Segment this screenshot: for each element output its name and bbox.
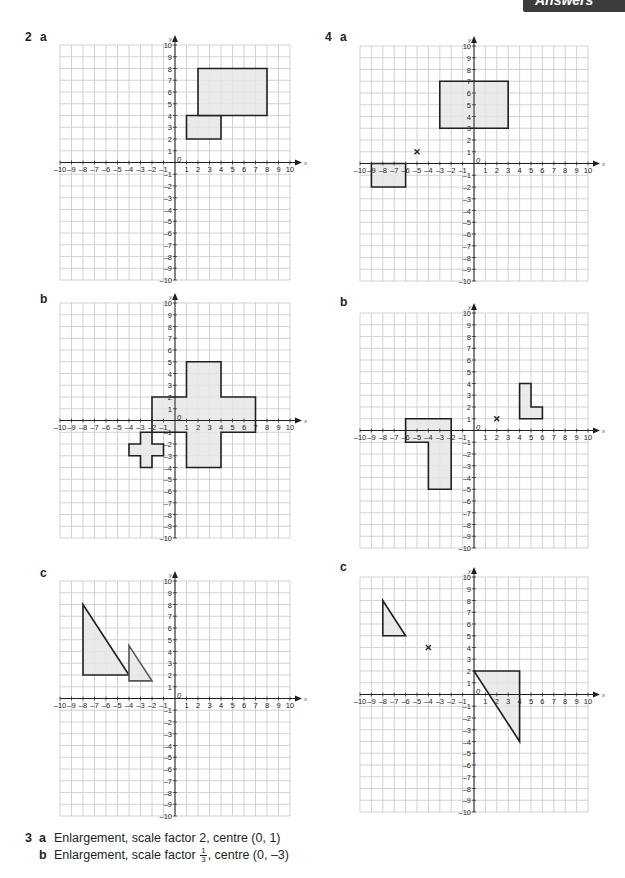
svg-text:–10: –10 <box>458 808 471 817</box>
svg-text:–10: –10 <box>354 166 367 175</box>
svg-text:–7: –7 <box>164 499 172 508</box>
svg-text:10: 10 <box>584 433 592 442</box>
svg-text:3: 3 <box>168 123 172 132</box>
section-tab-label: Answers <box>535 0 593 8</box>
answer-3a-text: Enlargement, scale factor 2, centre (0, … <box>54 830 281 847</box>
svg-text:8: 8 <box>467 66 471 75</box>
svg-text:4: 4 <box>168 648 172 657</box>
svg-text:–3: –3 <box>463 726 471 735</box>
svg-text:–1: –1 <box>463 702 471 711</box>
svg-text:–6: –6 <box>102 165 110 174</box>
graph-4a: xy–10–9–8–7–6–5–4–3–2–112345678910109876… <box>360 46 588 281</box>
svg-text:2: 2 <box>196 701 200 710</box>
svg-text:5: 5 <box>467 368 471 377</box>
svg-text:–9: –9 <box>164 264 172 273</box>
svg-text:10: 10 <box>286 423 294 432</box>
svg-text:–8: –8 <box>463 521 471 530</box>
svg-text:7: 7 <box>253 165 257 174</box>
svg-text:–2: –2 <box>447 697 455 706</box>
svg-text:7: 7 <box>467 608 471 617</box>
svg-text:–9: –9 <box>67 423 75 432</box>
svg-text:–5: –5 <box>113 423 121 432</box>
svg-text:3: 3 <box>207 423 211 432</box>
svg-text:2: 2 <box>168 671 172 680</box>
svg-text:2: 2 <box>196 165 200 174</box>
svg-text:–4: –4 <box>463 738 471 747</box>
svg-text:7: 7 <box>168 76 172 85</box>
svg-text:–5: –5 <box>113 165 121 174</box>
svg-text:8: 8 <box>265 423 269 432</box>
answer-3a-label: a <box>39 830 46 847</box>
svg-text:–2: –2 <box>447 433 455 442</box>
svg-text:1: 1 <box>184 701 188 710</box>
svg-text:–8: –8 <box>379 433 387 442</box>
svg-text:1: 1 <box>483 166 487 175</box>
answer-3b-label: b <box>39 847 47 864</box>
svg-text:9: 9 <box>575 166 579 175</box>
svg-text:5: 5 <box>230 423 234 432</box>
answer-3b-text-before: Enlargement, scale factor <box>54 848 199 862</box>
svg-text:–4: –4 <box>164 742 172 751</box>
svg-text:4: 4 <box>219 165 223 174</box>
svg-text:–8: –8 <box>164 253 172 262</box>
svg-text:–9: –9 <box>367 433 375 442</box>
svg-text:7: 7 <box>253 423 257 432</box>
svg-text:–2: –2 <box>164 182 172 191</box>
svg-text:–3: –3 <box>436 166 444 175</box>
svg-text:–1: –1 <box>164 428 172 437</box>
svg-text:–9: –9 <box>67 165 75 174</box>
y-axis-arrow-icon <box>172 571 178 578</box>
svg-text:–8: –8 <box>379 697 387 706</box>
svg-text:–5: –5 <box>463 749 471 758</box>
svg-text:–2: –2 <box>148 423 156 432</box>
svg-text:6: 6 <box>540 697 544 706</box>
svg-text:–5: –5 <box>164 217 172 226</box>
svg-text:–4: –4 <box>424 166 432 175</box>
svg-text:–4: –4 <box>125 165 133 174</box>
svg-text:2: 2 <box>495 166 499 175</box>
object-rectangle <box>187 116 222 140</box>
question-4-number: 4 <box>325 30 332 44</box>
svg-text:5: 5 <box>529 697 533 706</box>
svg-text:1: 1 <box>168 147 172 156</box>
svg-text:6: 6 <box>242 165 246 174</box>
svg-text:3: 3 <box>467 655 471 664</box>
svg-text:7: 7 <box>467 344 471 353</box>
svg-text:–2: –2 <box>463 183 471 192</box>
svg-text:7: 7 <box>253 701 257 710</box>
svg-text:–5: –5 <box>413 433 421 442</box>
object-l-shape <box>520 384 543 419</box>
svg-text:–3: –3 <box>436 433 444 442</box>
svg-text:10: 10 <box>286 701 294 710</box>
svg-text:–6: –6 <box>401 697 409 706</box>
svg-text:9: 9 <box>467 585 471 594</box>
svg-text:–3: –3 <box>136 423 144 432</box>
svg-text:1: 1 <box>168 683 172 692</box>
svg-text:–2: –2 <box>148 165 156 174</box>
svg-text:1: 1 <box>483 697 487 706</box>
svg-text:6: 6 <box>168 346 172 355</box>
question-3-number: 3 <box>25 830 32 847</box>
svg-text:10: 10 <box>286 165 294 174</box>
svg-text:6: 6 <box>242 423 246 432</box>
svg-text:–6: –6 <box>401 433 409 442</box>
svg-text:3: 3 <box>207 165 211 174</box>
svg-text:–6: –6 <box>401 166 409 175</box>
svg-text:10: 10 <box>463 573 471 582</box>
x-axis-arrow-icon <box>593 161 600 167</box>
svg-text:–4: –4 <box>424 697 432 706</box>
section-tab: Answers <box>523 0 625 12</box>
svg-text:5: 5 <box>230 701 234 710</box>
svg-text:10: 10 <box>463 42 471 51</box>
svg-text:–6: –6 <box>463 761 471 770</box>
svg-text:–1: –1 <box>463 438 471 447</box>
graph-2b: xy–10–9–8–7–6–5–4–3–2–112345678910109876… <box>60 303 290 538</box>
svg-text:–9: –9 <box>367 166 375 175</box>
svg-text:–7: –7 <box>390 166 398 175</box>
axes: xy <box>60 571 308 816</box>
svg-text:3: 3 <box>506 166 510 175</box>
axes: xy <box>360 303 606 548</box>
svg-text:9: 9 <box>575 697 579 706</box>
svg-text:10: 10 <box>164 299 172 308</box>
svg-text:9: 9 <box>467 54 471 63</box>
